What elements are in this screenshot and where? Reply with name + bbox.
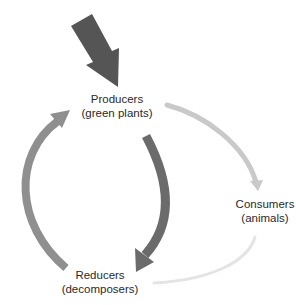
energy-input-arrow (71, 14, 119, 87)
producers-title: Producers (82, 92, 153, 106)
consumers-to-reducers-arrow (154, 237, 255, 283)
reducers-subtitle: (decomposers) (62, 282, 139, 296)
node-consumers: Consumers (animals) (236, 197, 295, 225)
reducers-to-producers-arrow (26, 110, 70, 268)
consumers-subtitle: (animals) (236, 211, 295, 225)
node-reducers: Reducers (decomposers) (62, 268, 139, 296)
reducers-title: Reducers (62, 268, 139, 282)
producers-to-reducers-arrow (135, 136, 165, 272)
node-producers: Producers (green plants) (82, 92, 153, 120)
producers-to-consumers-arrow (167, 105, 263, 191)
cycle-diagram (0, 0, 296, 305)
consumers-title: Consumers (236, 197, 295, 211)
producers-subtitle: (green plants) (82, 106, 153, 120)
